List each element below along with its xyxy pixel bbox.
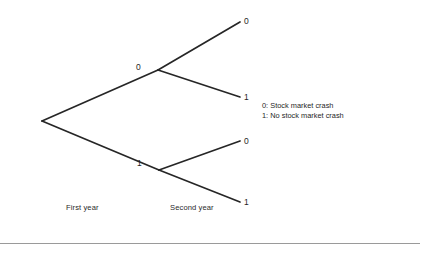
leaf-label-00: 0 bbox=[244, 17, 249, 26]
legend-item-crash: 0: Stock market crash bbox=[262, 101, 344, 111]
branch-first-year-0-to-leaf-01 bbox=[158, 70, 240, 97]
tree-diagram-canvas bbox=[0, 0, 430, 260]
branch-first-year-1-to-leaf-10 bbox=[159, 141, 240, 170]
leaf-label-01: 1 bbox=[244, 93, 249, 102]
tree-branches bbox=[42, 22, 240, 202]
branch-root-to-first-year-0 bbox=[42, 70, 158, 121]
legend: 0: Stock market crash 1: No stock market… bbox=[262, 101, 344, 121]
probability-tree-figure: 0 1 0 1 0 1 First year Second year 0: St… bbox=[0, 0, 430, 260]
stage-label-second-year: Second year bbox=[170, 203, 214, 212]
leaf-label-10: 0 bbox=[244, 137, 249, 146]
stage-label-first-year: First year bbox=[66, 203, 99, 212]
node-label-first-year-1: 1 bbox=[137, 159, 142, 168]
node-label-first-year-0: 0 bbox=[136, 63, 141, 72]
branch-first-year-1-to-leaf-11 bbox=[159, 170, 240, 202]
branch-first-year-0-to-leaf-00 bbox=[158, 22, 240, 70]
legend-item-no-crash: 1: No stock market crash bbox=[262, 111, 344, 121]
leaf-label-11: 1 bbox=[244, 198, 249, 207]
